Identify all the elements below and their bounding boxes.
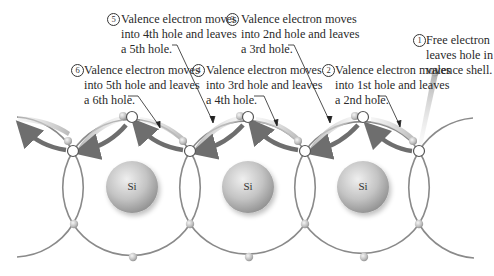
si-atom-label-1: Si: [117, 180, 147, 192]
step-2-number-icon: 2: [322, 64, 335, 77]
step-1-number-icon: 1: [413, 34, 426, 47]
step-5-number-icon: 5: [107, 13, 120, 26]
si-atom-label-3: Si: [348, 180, 378, 192]
hole-current-diagram: Si Si Si 1 Free electron leaves hole in …: [0, 0, 494, 276]
si-atom-label-2: Si: [233, 180, 263, 192]
step-6-number-icon: 6: [71, 64, 84, 77]
